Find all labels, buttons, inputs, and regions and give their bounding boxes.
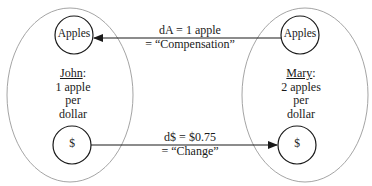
- mary-apples-label: Apples: [281, 27, 319, 39]
- mary-rate-line-3: dollar: [266, 108, 336, 122]
- mary-description: Mary: 2 apples per dollar: [266, 67, 336, 121]
- john-name-colon: :: [83, 66, 86, 80]
- john-rate-line-3: dollar: [40, 108, 106, 122]
- change-label: d$ = $0.75 = “Change”: [130, 131, 250, 157]
- john-name: John: [60, 66, 83, 80]
- compensation-label-line-2: = “Compensation”: [130, 38, 250, 50]
- mary-name: Mary: [286, 66, 312, 80]
- change-label-line-1: d$ = $0.75: [130, 131, 250, 143]
- john-description: John: 1 apple per dollar: [40, 67, 106, 121]
- john-rate-line-2: per: [40, 94, 106, 108]
- john-dollar-label: $: [53, 137, 91, 149]
- john-rate-line-1: 1 apple: [40, 81, 106, 95]
- mary-rate-line-1: 2 apples: [266, 81, 336, 95]
- compensation-label-line-1: dA = 1 apple: [130, 24, 250, 36]
- john-apples-label: Apples: [55, 27, 93, 39]
- mary-rate-line-2: per: [266, 94, 336, 108]
- change-label-line-2: = “Change”: [130, 145, 250, 157]
- mary-dollar-label: $: [278, 137, 316, 149]
- mary-name-colon: :: [312, 66, 315, 80]
- compensation-label: dA = 1 apple = “Compensation”: [130, 24, 250, 50]
